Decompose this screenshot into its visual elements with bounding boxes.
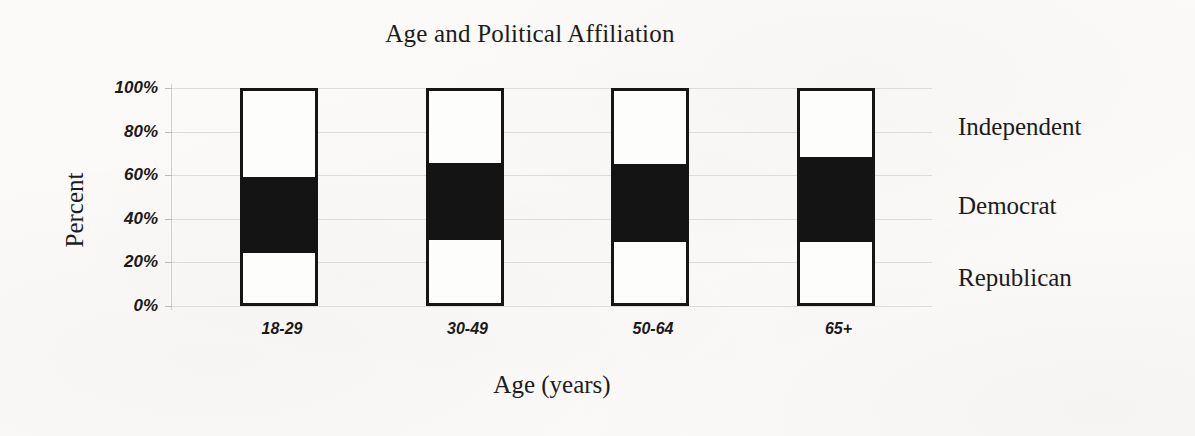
gridline-0 [172,306,932,307]
y-axis-line [171,84,172,310]
bar-segment-democrat-30-49[interactable] [426,163,504,239]
y-tick-label-20: 20% [124,252,158,272]
bar-18-29[interactable]: 18-29 [240,88,318,306]
plot-area: 0%20%40%60%80%100% 18-2930-4950-6465+ [172,88,932,306]
bar-65+[interactable]: 65+ [797,88,875,306]
bar-30-49[interactable]: 30-49 [426,88,504,306]
x-tick-label-30-49: 30-49 [408,320,528,338]
y-tick-mark-80 [165,132,172,133]
y-tick-label-0: 0% [133,296,158,316]
bar-segment-democrat-18-29[interactable] [240,177,318,253]
x-tick-label-18-29: 18-29 [222,320,342,338]
y-tick-label-40: 40% [124,209,158,229]
y-tick-mark-20 [165,262,172,263]
y-tick-mark-0 [165,306,172,307]
x-axis-title: Age (years) [172,371,932,399]
bar-segment-democrat-50-64[interactable] [611,164,689,242]
chart-title: Age and Political Affiliation [0,20,1060,48]
x-tick-label-65+: 65+ [779,320,899,338]
y-axis-title: Percent [61,173,89,248]
legend-label-republican: Republican [958,264,1072,292]
legend: IndependentDemocratRepublican [958,88,1195,306]
legend-label-democrat: Democrat [958,192,1057,220]
x-tick-label-50-64: 50-64 [593,320,713,338]
y-tick-label-80: 80% [124,122,158,142]
legend-label-independent: Independent [958,113,1082,141]
bar-50-64[interactable]: 50-64 [611,88,689,306]
chart-canvas: Age and Political Affiliation Percent Ag… [0,0,1195,436]
y-tick-label-60: 60% [124,165,158,185]
y-tick-label-100: 100% [115,78,158,98]
y-tick-mark-100 [165,88,172,89]
y-tick-mark-60 [165,175,172,176]
y-tick-mark-40 [165,219,172,220]
bar-segment-democrat-65+[interactable] [797,157,875,242]
